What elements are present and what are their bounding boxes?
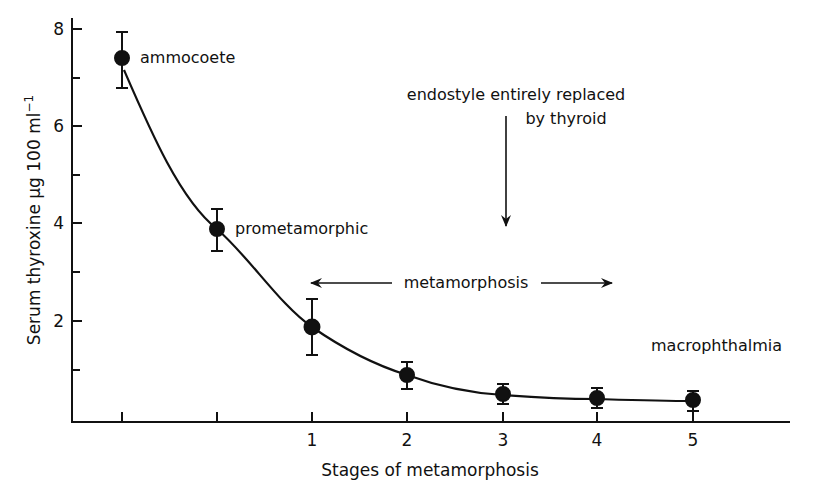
x-tick-4: 4: [592, 430, 603, 450]
fitted-curve: [124, 70, 693, 401]
data-point-ammocoete: [115, 32, 129, 88]
y-tick-6: 6: [53, 116, 64, 136]
y-tick-4: 4: [53, 213, 64, 233]
x-axis: [71, 412, 790, 422]
label-ammocoete: ammocoete: [140, 48, 235, 67]
x-tick-2: 2: [402, 430, 413, 450]
y-tick-8: 8: [53, 19, 64, 39]
x-axis-title: Stages of metamorphosis: [321, 460, 539, 480]
y-axis-title-superscript: −1: [22, 95, 36, 113]
data-point-stage-5: [686, 391, 700, 411]
chart: 8 6 4 2 1 2 3 4 5 Stages of metamorphosi…: [0, 0, 825, 498]
y-axis-title: Serum thyroxine µg 100 ml: [24, 113, 44, 346]
label-endostyle-line1: endostyle entirely replaced: [407, 85, 625, 104]
x-tick-3: 3: [498, 430, 509, 450]
data-point-stage-2: [400, 362, 414, 389]
svg-text:Serum thyroxine µg 100 ml−1: Serum thyroxine µg 100 ml−1: [22, 95, 44, 345]
y-axis-title-group: Serum thyroxine µg 100 ml−1: [22, 95, 44, 345]
data-point-prometamorphic: [210, 209, 224, 251]
data-point-stage-1: [305, 299, 320, 355]
data-point-stage-4: [590, 388, 604, 408]
y-axis: [72, 18, 82, 422]
label-macrophthalmia: macrophthalmia: [651, 336, 782, 355]
x-tick-1: 1: [307, 430, 318, 450]
x-tick-5: 5: [688, 430, 699, 450]
label-prometamorphic: prometamorphic: [235, 219, 368, 238]
y-tick-2: 2: [53, 311, 64, 331]
label-metamorphosis: metamorphosis: [404, 273, 529, 292]
label-endostyle-line2: by thyroid: [525, 109, 606, 128]
data-point-stage-3: [496, 384, 510, 404]
